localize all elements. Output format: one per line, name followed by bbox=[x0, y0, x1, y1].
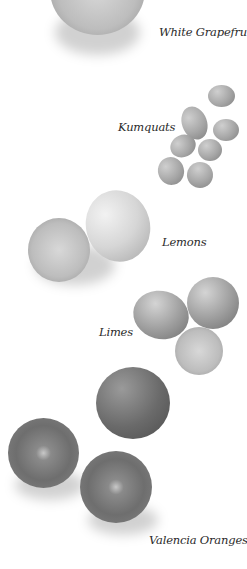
lime-whole-2-image bbox=[187, 277, 239, 329]
citrus-varieties-illustration: White Grapefruits Kumquats Lemons Limes … bbox=[0, 0, 247, 569]
limes-label: Limes bbox=[99, 325, 133, 339]
valencia-oranges-label: Valencia Oranges bbox=[149, 533, 247, 547]
lemon-half-image bbox=[28, 218, 90, 282]
kumquats-label: Kumquats bbox=[118, 120, 175, 134]
orange-whole-image bbox=[96, 367, 170, 439]
lemons-label: Lemons bbox=[162, 235, 206, 249]
lime-half-image bbox=[175, 327, 223, 375]
orange-half-image bbox=[8, 418, 79, 488]
orange-half-2-image bbox=[80, 451, 152, 523]
white-grapefruits-label: White Grapefruits bbox=[159, 25, 247, 39]
